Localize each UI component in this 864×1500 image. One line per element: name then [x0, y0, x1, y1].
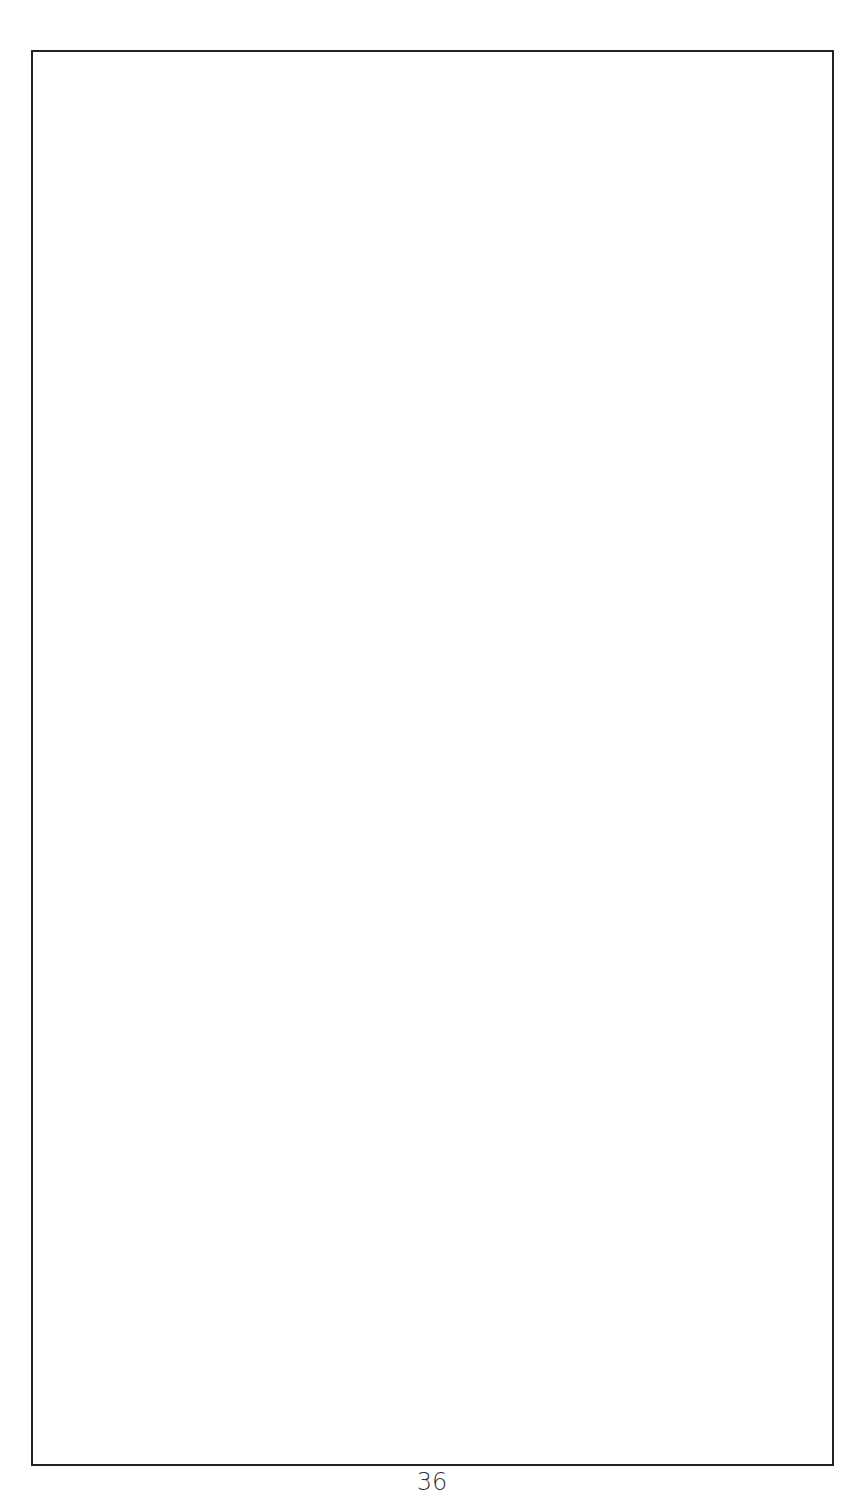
page-number: 36 — [0, 1468, 864, 1496]
blank-drawing-frame — [31, 50, 834, 1466]
